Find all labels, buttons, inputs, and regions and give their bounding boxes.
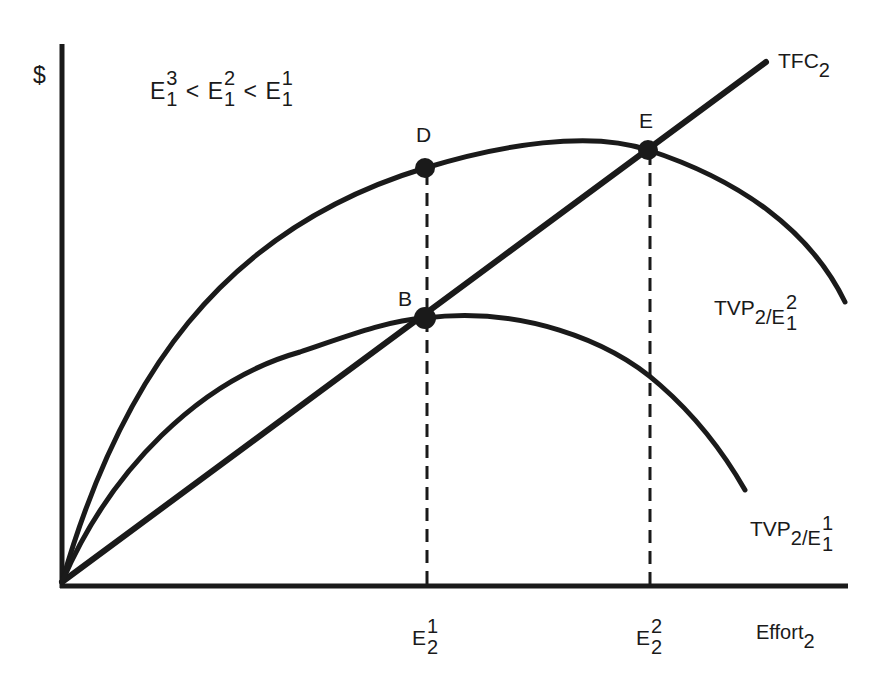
tvp-lower-label-sup: 1 xyxy=(822,513,833,534)
point-b-label: B xyxy=(398,288,412,309)
point-d-marker xyxy=(415,158,435,178)
x-axis-label-subscript: 2 xyxy=(803,630,814,652)
x-tick-e2-1-sub: 2 xyxy=(427,637,438,658)
inequality-annotation: E31 < E21 < E11 xyxy=(150,72,293,114)
ineq-e-a-sup: 3 xyxy=(166,68,177,89)
ineq-e-b: E xyxy=(208,78,223,104)
effort-cost-diagram xyxy=(0,0,883,694)
x-tick-e2-1-sup: 1 xyxy=(427,616,438,637)
tvp-upper-label-sup: 2 xyxy=(786,292,797,313)
tvp-upper-curve xyxy=(62,141,845,582)
ineq-op-2: < xyxy=(244,78,257,104)
tvp-upper-label: TVP2/E21 xyxy=(714,288,797,330)
ineq-e-a: E xyxy=(150,78,165,104)
tvp-lower-label-base: TVP xyxy=(750,517,791,540)
point-d-label: D xyxy=(416,124,431,145)
point-e-label: E xyxy=(639,110,653,131)
ineq-e-a-sub: 1 xyxy=(166,89,177,110)
ineq-e-c-sub: 1 xyxy=(282,89,293,110)
tfc-line xyxy=(62,62,766,582)
x-axis-label: Effort2 xyxy=(756,622,815,642)
point-b-marker xyxy=(414,307,436,329)
tvp-lower-label: TVP2/E11 xyxy=(750,509,833,551)
tvp-upper-label-sub: 1 xyxy=(786,313,797,334)
ineq-e-b-sub: 1 xyxy=(224,89,235,110)
x-tick-e2-2-base: E xyxy=(636,626,650,649)
tfc-label-base: TFC xyxy=(778,49,819,72)
y-axis-label: $ xyxy=(33,64,46,87)
ineq-e-b-sup: 2 xyxy=(224,68,235,89)
tvp-lower-label-sub: 1 xyxy=(822,534,833,555)
tfc-label-subscript: 2 xyxy=(819,59,830,81)
ineq-op-1: < xyxy=(186,78,199,104)
tvp-lower-label-subscript: 2/E xyxy=(791,527,821,549)
x-tick-e2-1-base: E xyxy=(412,626,426,649)
point-e-marker xyxy=(638,140,658,160)
x-tick-e2-1: E12 xyxy=(412,618,438,660)
ineq-e-c: E xyxy=(265,78,280,104)
x-tick-e2-2: E22 xyxy=(636,618,662,660)
x-axis-label-base: Effort xyxy=(756,621,803,643)
tvp-upper-label-base: TVP xyxy=(714,296,755,319)
x-tick-e2-2-sub: 2 xyxy=(651,637,662,658)
ineq-e-c-sup: 1 xyxy=(282,68,293,89)
tfc-label: TFC2 xyxy=(778,50,830,71)
tvp-upper-label-subscript: 2/E xyxy=(755,306,785,328)
x-tick-e2-2-sup: 2 xyxy=(651,616,662,637)
